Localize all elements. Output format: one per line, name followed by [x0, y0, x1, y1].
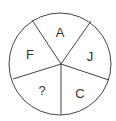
divider-left: [13, 64, 61, 79]
segment-label-top: A: [56, 26, 65, 39]
divider-right: [61, 64, 109, 80]
wheel-diagram: [0, 0, 116, 121]
segment-label-left: F: [26, 48, 34, 61]
segment-label-bottom-right: C: [75, 87, 84, 100]
segment-label-right: J: [87, 50, 94, 63]
segment-label-bottom-left: ?: [38, 84, 45, 97]
